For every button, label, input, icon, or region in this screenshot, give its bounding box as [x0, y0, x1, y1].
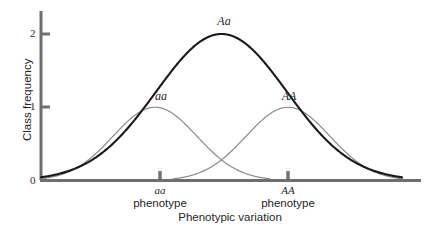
chart-canvas [0, 0, 442, 230]
x-category-word-aa: phenotype [133, 198, 187, 210]
curve-Aa [41, 34, 402, 177]
chart-figure: 0 1 2 Class frequency Aa aa AA aa phenot… [0, 0, 442, 230]
x-category-genotype-AA: AA [281, 185, 294, 196]
x-category-word-AA: phenotype [261, 198, 315, 210]
y-tick-label-2: 2 [30, 28, 36, 39]
curve-label-Aa: Aa [217, 15, 230, 27]
y-axis-title: Class frequency [22, 59, 34, 141]
curve-label-AA: AA [282, 90, 297, 102]
curve-label-aa: aa [155, 90, 167, 102]
y-tick-label-0: 0 [30, 175, 36, 186]
x-axis-title: Phenotypic variation [178, 212, 282, 224]
x-category-genotype-aa: aa [155, 185, 166, 196]
